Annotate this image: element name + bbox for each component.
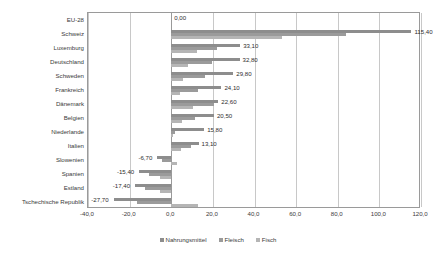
legend-swatch-icon bbox=[219, 238, 223, 242]
x-tick-label: 20,0 bbox=[206, 210, 218, 218]
bar-group: 13,10 bbox=[88, 139, 419, 153]
bar-group: 24,10 bbox=[88, 83, 419, 97]
bar-2 bbox=[171, 148, 180, 151]
gridline bbox=[421, 13, 422, 207]
bar-2 bbox=[171, 78, 182, 81]
data-label: 20,50 bbox=[217, 112, 232, 119]
legend-swatch-icon bbox=[160, 238, 164, 242]
bar-group: -27,70 bbox=[88, 195, 419, 209]
data-label: 0,00 bbox=[174, 14, 186, 21]
category-label: Slowenien bbox=[0, 156, 84, 163]
category-label: EU-28 bbox=[0, 16, 84, 23]
bar-2 bbox=[171, 106, 193, 109]
data-label: 24,10 bbox=[224, 84, 239, 91]
bar-chart: EU-28SchweizLuxemburgDeutschlandSchweden… bbox=[0, 0, 436, 254]
bar-2 bbox=[171, 36, 281, 39]
bar-2 bbox=[160, 176, 171, 179]
category-label: Tschechische Republik bbox=[0, 198, 84, 205]
category-label: Estland bbox=[0, 184, 84, 191]
bar-2 bbox=[171, 204, 198, 207]
legend-swatch-icon bbox=[256, 238, 260, 242]
category-label: Schweiz bbox=[0, 30, 84, 37]
data-label: -17,40 bbox=[113, 182, 130, 189]
category-label: Deutschland bbox=[0, 58, 84, 65]
plot-area: 0,00115,4033,1032,8029,8024,1022,6020,50… bbox=[87, 12, 420, 208]
bar-group: 29,80 bbox=[88, 69, 419, 83]
bar-2 bbox=[171, 134, 173, 137]
x-tick-label: 120,0 bbox=[412, 210, 427, 218]
data-label: 22,60 bbox=[221, 98, 236, 105]
bar-group: 20,50 bbox=[88, 111, 419, 125]
data-label: 13,10 bbox=[202, 140, 217, 147]
x-tick-label: -40,0 bbox=[80, 210, 94, 218]
bar-2 bbox=[171, 162, 177, 165]
bar-group: 33,10 bbox=[88, 41, 419, 55]
legend-label: Fleisch bbox=[225, 236, 244, 244]
category-label: Dänemark bbox=[0, 100, 84, 107]
bar-2 bbox=[171, 92, 179, 95]
x-tick-label: 0,0 bbox=[166, 210, 174, 218]
legend-item[interactable]: Fisch bbox=[256, 236, 277, 244]
data-label: 15,80 bbox=[207, 126, 222, 133]
x-tick-label: -20,0 bbox=[122, 210, 136, 218]
category-label: Spanien bbox=[0, 170, 84, 177]
bar-group: 22,60 bbox=[88, 97, 419, 111]
legend-label: Nahrungsmittel bbox=[166, 236, 207, 244]
x-axis: -40,0-20,00,020,040,060,080,0100,0120,0 bbox=[87, 210, 420, 220]
bar-group: 115,40 bbox=[88, 27, 419, 41]
x-tick-label: 60,0 bbox=[289, 210, 301, 218]
legend-label: Fisch bbox=[262, 236, 277, 244]
data-label: -27,70 bbox=[91, 196, 108, 203]
bar-group: -6,70 bbox=[88, 153, 419, 167]
data-label: 33,10 bbox=[243, 42, 258, 49]
data-label: 29,80 bbox=[236, 70, 251, 77]
data-label: -6,70 bbox=[138, 154, 152, 161]
x-tick-label: 40,0 bbox=[248, 210, 260, 218]
bar-1 bbox=[162, 159, 171, 162]
bar-group: -15,40 bbox=[88, 167, 419, 181]
bar-1 bbox=[137, 201, 171, 204]
bar-0 bbox=[171, 128, 204, 131]
x-tick-label: 80,0 bbox=[331, 210, 343, 218]
category-axis: EU-28SchweizLuxemburgDeutschlandSchweden… bbox=[0, 12, 84, 208]
bar-group: 15,80 bbox=[88, 125, 419, 139]
category-label: Niederlande bbox=[0, 128, 84, 135]
chart-legend: NahrungsmittelFleischFisch bbox=[0, 234, 436, 246]
bar-2 bbox=[171, 50, 197, 53]
category-label: Italien bbox=[0, 142, 84, 149]
legend-item[interactable]: Fleisch bbox=[219, 236, 244, 244]
bar-group: 32,80 bbox=[88, 55, 419, 69]
bar-group: -17,40 bbox=[88, 181, 419, 195]
data-label: 115,40 bbox=[414, 28, 432, 35]
data-label: 32,80 bbox=[243, 56, 258, 63]
category-label: Frankreich bbox=[0, 86, 84, 93]
bar-group: 0,00 bbox=[88, 13, 419, 27]
bar-2 bbox=[171, 120, 181, 123]
category-label: Schweden bbox=[0, 72, 84, 79]
category-label: Luxemburg bbox=[0, 44, 84, 51]
bar-2 bbox=[160, 190, 171, 193]
category-label: Belgien bbox=[0, 114, 84, 121]
bar-2 bbox=[171, 64, 188, 67]
x-tick-label: 100,0 bbox=[371, 210, 386, 218]
data-label: -15,40 bbox=[117, 168, 134, 175]
legend-item[interactable]: Nahrungsmittel bbox=[160, 236, 207, 244]
